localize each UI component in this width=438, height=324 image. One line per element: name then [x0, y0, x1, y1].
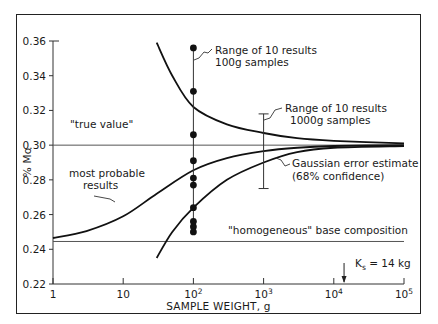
- x-axis-title: SAMPLE WEIGHT, g: [166, 300, 270, 312]
- data-point: [190, 204, 197, 211]
- y-tick-label: 0.24: [23, 243, 47, 255]
- data-point: [190, 45, 197, 52]
- gaussian-leader: [276, 158, 290, 166]
- data-point: [190, 131, 197, 138]
- x-tick-label: 102: [184, 287, 202, 300]
- x-tick-label: 104: [325, 287, 343, 300]
- data-point: [190, 229, 197, 236]
- x-tick-label: 1: [50, 288, 57, 300]
- most-probable-label-line1: most probable: [69, 167, 145, 179]
- y-tick-label: 0.34: [23, 70, 47, 82]
- ks-label: Ks = 14 kg: [355, 257, 411, 272]
- data-point: [190, 88, 197, 95]
- most-probable-label-line2: results: [83, 179, 118, 191]
- range-1000-label-line1: Range of 10 results: [285, 102, 387, 114]
- true-value-label: "true value": [70, 118, 133, 130]
- gaussian-label-line1: Gaussian error estimate: [292, 157, 418, 169]
- most-probable-leader: [94, 196, 115, 202]
- x-tick-label: 105: [395, 287, 413, 300]
- range-1000-label-line2: 1000g samples: [290, 114, 370, 126]
- data-point: [190, 175, 197, 182]
- gaussian-label-line2: (68% confidence): [292, 170, 384, 182]
- y-tick-label: 0.22: [23, 278, 46, 290]
- ks-arrow-head: [342, 276, 347, 283]
- data-point: [190, 182, 197, 189]
- range-bars: [193, 48, 268, 232]
- base-composition-label: "homogeneous" base composition: [228, 224, 408, 236]
- data-point: [190, 157, 197, 164]
- range-100-label-line2: 100g samples: [215, 56, 289, 68]
- annotations: Range of 10 results100g samplesRange of …: [69, 44, 418, 283]
- range-100-leader: [194, 49, 212, 60]
- y-tick-label: 0.36: [23, 35, 47, 47]
- range-100-label-line1: Range of 10 results: [215, 44, 317, 56]
- y-tick-label: 0.32: [23, 104, 46, 116]
- y-axis-title: % Mo: [21, 148, 33, 178]
- chart: 0.220.240.260.280.300.320.340.3611010210…: [0, 0, 438, 324]
- x-tick-label: 103: [255, 287, 273, 300]
- y-tick-label: 0.26: [23, 209, 47, 221]
- x-tick-label: 10: [117, 288, 130, 300]
